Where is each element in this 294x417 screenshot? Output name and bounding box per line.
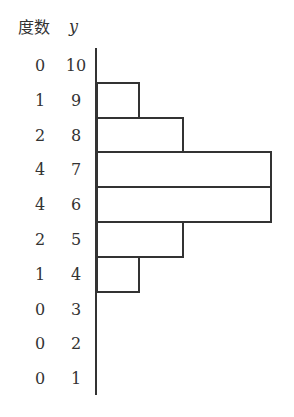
- y-value: 8: [64, 126, 88, 146]
- frequency-value: 2: [30, 230, 50, 250]
- histogram-bar: [96, 117, 184, 154]
- frequency-value: 0: [30, 56, 50, 76]
- histogram-bar: [96, 186, 272, 223]
- histogram-bar: [96, 256, 140, 293]
- frequency-value: 4: [30, 195, 50, 215]
- y-value: 7: [64, 160, 88, 180]
- frequency-value: 0: [30, 300, 50, 320]
- histogram-bar: [96, 151, 272, 188]
- y-value: 5: [64, 230, 88, 250]
- y-value: 3: [64, 300, 88, 320]
- y-value: 6: [64, 195, 88, 215]
- histogram-bar: [96, 82, 140, 119]
- frequency-value: 0: [30, 334, 50, 354]
- y-axis-header: y: [69, 17, 78, 37]
- frequency-value: 0: [30, 369, 50, 389]
- histogram-bar: [96, 221, 184, 258]
- y-value: 1: [64, 369, 88, 389]
- frequency-header: 度数: [18, 18, 50, 38]
- frequency-value: 1: [30, 265, 50, 285]
- y-value: 9: [64, 91, 88, 111]
- y-value: 10: [64, 56, 88, 76]
- frequency-value: 4: [30, 160, 50, 180]
- y-value: 4: [64, 265, 88, 285]
- frequency-value: 1: [30, 91, 50, 111]
- frequency-value: 2: [30, 126, 50, 146]
- y-value: 2: [64, 334, 88, 354]
